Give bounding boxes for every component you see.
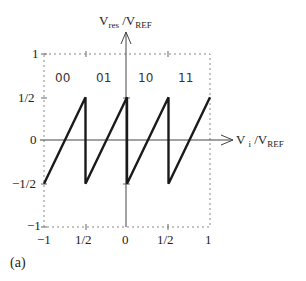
figure-caption: (a) — [10, 256, 26, 270]
y-tick-half: 1/2 — [18, 91, 35, 104]
residue-curve — [44, 97, 210, 184]
y-tick-neg-1: −1 — [27, 219, 41, 232]
x-tick-0: 0 — [122, 233, 129, 246]
region-code-11: 11 — [178, 71, 193, 85]
x-tick-neg-half: 1/2 — [75, 233, 92, 246]
y-axis-label: Vres /VREF — [99, 14, 152, 30]
region-code-00: 00 — [55, 71, 70, 85]
x-axis-label: V i /VREF — [236, 133, 284, 149]
x-tick-neg-1: −1 — [37, 233, 51, 246]
y-tick-0: 0 — [30, 133, 37, 146]
x-tick-half: 1/2 — [157, 233, 174, 246]
y-tick-neg-half: −1/2 — [12, 177, 36, 190]
region-code-10: 10 — [138, 71, 153, 85]
y-tick-1: 1 — [32, 47, 39, 60]
region-code-01: 01 — [96, 71, 111, 85]
x-tick-1: 1 — [205, 233, 212, 246]
